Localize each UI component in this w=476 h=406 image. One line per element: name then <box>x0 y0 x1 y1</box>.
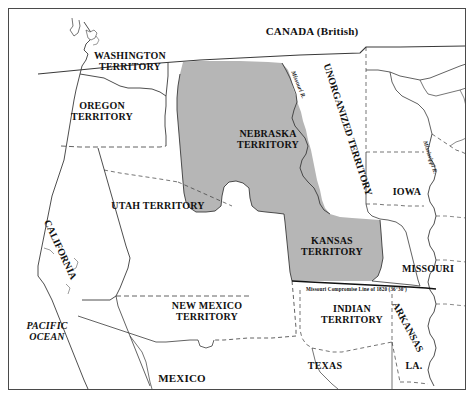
washington-oregon-border <box>80 74 166 96</box>
california-eastern-border <box>82 148 130 300</box>
kansas-nebraska-shaded-region <box>177 61 383 281</box>
newmexico-texas-border <box>292 281 296 336</box>
map-geography <box>0 0 476 406</box>
indian-territory-southern-border <box>312 342 392 352</box>
indian-territory-western-border <box>300 290 312 348</box>
mexico-internal-border <box>116 296 150 386</box>
oregon-utah-border <box>61 146 166 147</box>
iowa-missouri-border <box>366 204 424 206</box>
oregon-eastern-border <box>165 96 166 146</box>
pacific-coastline <box>38 22 92 276</box>
historical-map: CANADA (British) WASHINGTON TERRITORY OR… <box>0 0 476 406</box>
arkansas-louisiana-border <box>400 382 428 384</box>
mississippi-river <box>428 134 436 386</box>
